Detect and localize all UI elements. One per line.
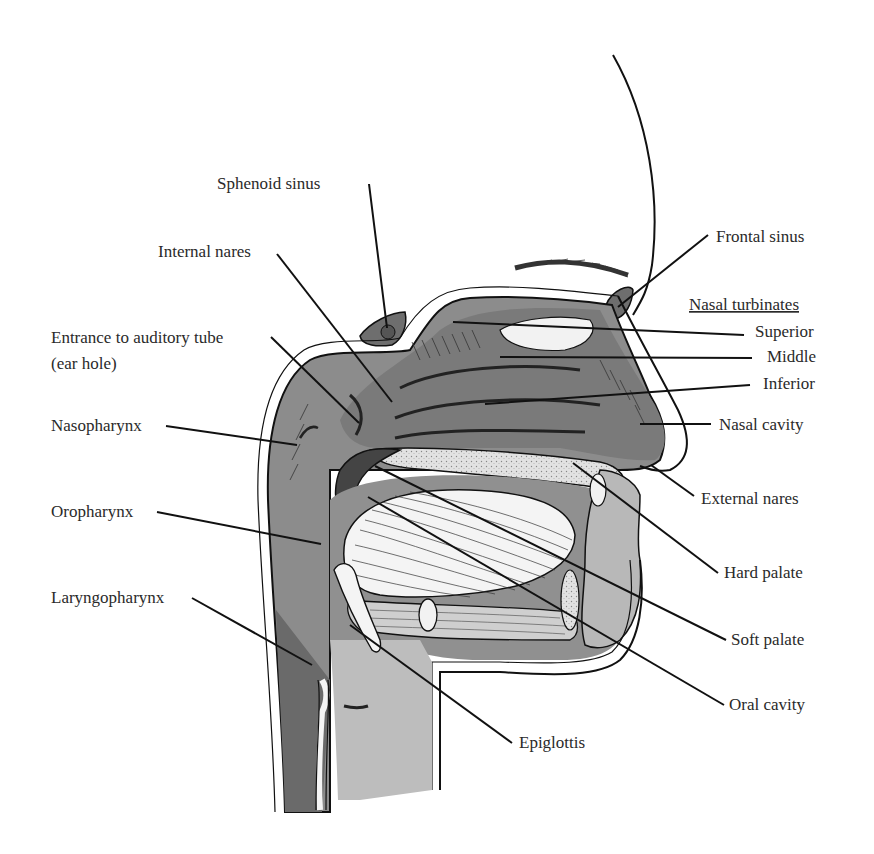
label-middle: Middle xyxy=(767,347,816,366)
label-superior: Superior xyxy=(755,322,814,341)
vocal-fold xyxy=(344,706,368,708)
label-internal-nares: Internal nares xyxy=(158,242,251,261)
hyoid-bone xyxy=(419,599,437,631)
label-nasal-cavity: Nasal cavity xyxy=(719,415,804,434)
label-frontal-sinus: Frontal sinus xyxy=(716,227,804,246)
leader-middle xyxy=(500,357,752,358)
label-nasal-turbinates-heading: Nasal turbinates xyxy=(689,295,799,314)
label-ear-hole: (ear hole) xyxy=(51,354,117,373)
label-epiglottis: Epiglottis xyxy=(519,733,585,752)
larynx-region xyxy=(330,640,432,800)
label-entrance-auditory-tube: Entrance to auditory tube xyxy=(51,328,223,347)
label-oropharynx: Oropharynx xyxy=(51,502,134,521)
label-sphenoid-sinus: Sphenoid sinus xyxy=(217,174,320,193)
lower-tooth xyxy=(561,570,579,630)
label-laryngopharynx: Laryngopharynx xyxy=(51,588,165,607)
anatomy-diagram: Sphenoid sinus Internal nares Entrance t… xyxy=(0,0,874,854)
label-soft-palate: Soft palate xyxy=(731,630,804,649)
eyebrow xyxy=(515,259,628,277)
face-profile-outline xyxy=(613,55,655,315)
label-hard-palate: Hard palate xyxy=(724,563,803,582)
label-oral-cavity: Oral cavity xyxy=(729,695,805,714)
label-nasopharynx: Nasopharynx xyxy=(51,416,142,435)
leader-sphenoid-sinus xyxy=(369,184,387,328)
label-external-nares: External nares xyxy=(701,489,799,508)
label-inferior: Inferior xyxy=(763,374,815,393)
